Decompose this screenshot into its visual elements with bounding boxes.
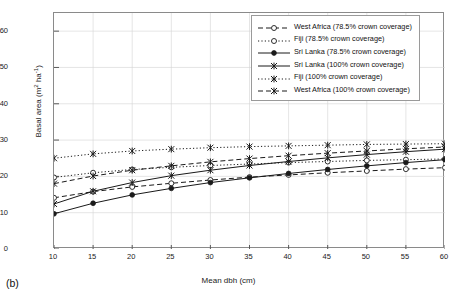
legend-key-icon [257, 45, 291, 57]
x-tick-label: 20 [116, 252, 146, 261]
legend-item-4[interactable]: Fiji (100% crown coverage) [257, 70, 412, 83]
legend-label: Sri Lanka (78.5% crown coverage) [291, 47, 406, 56]
x-tick-label: 25 [155, 252, 185, 261]
legend-item-1[interactable]: Fiji (78.5% crown coverage) [257, 33, 412, 46]
legend-key-icon [257, 83, 291, 95]
legend-key-icon [257, 71, 291, 83]
legend-label: Fiji (100% crown coverage) [291, 72, 382, 81]
y-tick-label: 10 [0, 207, 8, 216]
legend-key-icon [257, 58, 291, 70]
panel-label: (b) [6, 277, 19, 289]
y-tick-label: 20 [0, 171, 8, 180]
x-axis-title: Mean dbh (cm) [0, 276, 457, 285]
x-tick-label: 45 [312, 252, 342, 261]
legend-key-icon [257, 33, 291, 45]
legend-label: Fiji (78.5% crown coverage) [291, 34, 384, 43]
legend-label: Sri Lanka (100% crown coverage) [291, 60, 404, 69]
y-tick-label: 30 [0, 135, 8, 144]
x-tick-label: 50 [351, 252, 381, 261]
legend-label: West Africa (100% crown coverage) [291, 85, 410, 94]
x-tick-label: 10 [38, 252, 68, 261]
y-tick-label: 50 [0, 62, 8, 71]
series-0 [54, 165, 445, 200]
figure: Basal area (m2 ha-1) Mean dbh (cm) 01020… [0, 0, 457, 306]
legend-item-5[interactable]: West Africa (100% crown coverage) [257, 83, 412, 96]
x-tick-label: 55 [390, 252, 420, 261]
y-axis-title: Basal area (m2 ha-1) [33, 61, 44, 141]
y-tick-label: 40 [0, 98, 8, 107]
legend-key-icon [257, 20, 291, 32]
y-tick-label: 0 [0, 244, 8, 253]
y-tick-label: 60 [0, 26, 8, 35]
x-tick-label: 40 [273, 252, 303, 261]
x-tick-label: 35 [234, 252, 264, 261]
x-tick-label: 30 [194, 252, 224, 261]
legend-item-3[interactable]: Sri Lanka (100% crown coverage) [257, 58, 412, 71]
legend[interactable]: West Africa (78.5% crown coverage)Fiji (… [251, 15, 420, 101]
legend-label: West Africa (78.5% crown coverage) [291, 22, 412, 31]
legend-item-0[interactable]: West Africa (78.5% crown coverage) [257, 20, 412, 33]
legend-item-2[interactable]: Sri Lanka (78.5% crown coverage) [257, 45, 412, 58]
x-tick-label: 15 [77, 252, 107, 261]
x-tick-label: 60 [429, 252, 457, 261]
